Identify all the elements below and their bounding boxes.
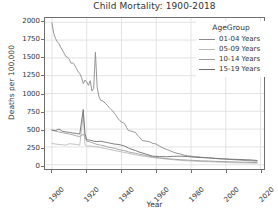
legend: AgeGroup 01-04 Years05-09 Years10-14 Yea… bbox=[196, 21, 266, 77]
chart-title: Child Mortality: 1900-2018 bbox=[44, 1, 265, 11]
legend-item-label: 01-04 Years bbox=[219, 35, 260, 43]
x-tick-mark bbox=[121, 170, 122, 173]
legend-swatch-icon bbox=[199, 59, 215, 60]
x-axis-tick-labels: 1900192019401960198020002020 bbox=[44, 170, 265, 200]
legend-item-label: 10-14 Years bbox=[219, 55, 260, 63]
legend-swatch-icon bbox=[199, 39, 215, 40]
y-tick-label: 500 bbox=[0, 126, 40, 134]
legend-item-2[interactable]: 10-14 Years bbox=[199, 54, 263, 64]
legend-swatch-icon bbox=[199, 49, 215, 50]
x-tick-mark bbox=[226, 170, 227, 173]
x-axis-label: Year bbox=[44, 200, 265, 209]
legend-item-0[interactable]: 01-04 Years bbox=[199, 34, 263, 44]
x-tick-mark bbox=[261, 170, 262, 173]
x-tick-mark bbox=[51, 170, 52, 173]
x-tick-label: 2020 bbox=[258, 186, 276, 204]
legend-title: AgeGroup bbox=[199, 23, 263, 32]
y-axis-tick-labels: 025050075010001250150017502000 bbox=[0, 17, 40, 170]
y-tick-label: 1250 bbox=[0, 71, 40, 79]
y-tick-label: 2000 bbox=[0, 17, 40, 25]
y-tick-label: 250 bbox=[0, 144, 40, 152]
x-tick-mark bbox=[156, 170, 157, 173]
y-tick-label: 1500 bbox=[0, 53, 40, 61]
legend-item-1[interactable]: 05-09 Years bbox=[199, 44, 263, 54]
y-tick-label: 750 bbox=[0, 108, 40, 116]
legend-swatch-icon bbox=[199, 69, 215, 70]
x-tick-mark bbox=[86, 170, 87, 173]
legend-item-label: 15-19 Years bbox=[219, 65, 260, 73]
y-tick-label: 1000 bbox=[0, 90, 40, 98]
y-tick-label: 1750 bbox=[0, 35, 40, 43]
y-tick-label: 0 bbox=[0, 162, 40, 170]
legend-item-label: 05-09 Years bbox=[219, 45, 260, 53]
legend-item-3[interactable]: 15-19 Years bbox=[199, 64, 263, 74]
x-tick-mark bbox=[191, 170, 192, 173]
legend-items: 01-04 Years05-09 Years10-14 Years15-19 Y… bbox=[199, 34, 263, 74]
chart-figure: Child Mortality: 1900-2018 Deaths per 10… bbox=[0, 0, 278, 212]
